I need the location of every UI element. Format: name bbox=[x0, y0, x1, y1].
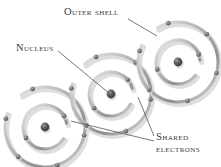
nucleus bbox=[174, 58, 183, 67]
atom-bonding-diagram: Outer shell Nucleus Shared electrons bbox=[0, 0, 221, 167]
outer-shell-electron bbox=[30, 87, 35, 92]
outer-shell-electron bbox=[3, 116, 8, 121]
atom-right bbox=[137, 21, 220, 105]
nucleus bbox=[41, 123, 50, 132]
outer-shell-electron bbox=[94, 55, 99, 60]
nucleus bbox=[107, 90, 116, 99]
inner-shell-electron bbox=[62, 114, 67, 119]
outer-shell-electron bbox=[69, 86, 74, 91]
outer-shell-electron bbox=[185, 98, 190, 103]
outer-shell-electron bbox=[166, 21, 171, 26]
outer-shell-electron bbox=[82, 133, 87, 138]
inner-shell-electron bbox=[155, 67, 160, 72]
label-outer-shell: Outer shell bbox=[64, 6, 119, 18]
label-shared-line2: electrons bbox=[156, 143, 200, 155]
label-shared-line1: Shared bbox=[156, 131, 188, 142]
leader-outer-shell bbox=[128, 19, 157, 36]
outer-shell-electron bbox=[214, 71, 219, 76]
label-shared-electrons: Shared electrons bbox=[156, 131, 200, 154]
outer-shell-electron bbox=[204, 32, 209, 37]
inner-shell-electron bbox=[125, 77, 130, 82]
inner-shell-electron bbox=[92, 106, 97, 111]
outer-shell-electron bbox=[147, 87, 152, 92]
outer-shell-electron bbox=[124, 129, 129, 134]
outer-shell-electron bbox=[148, 97, 153, 102]
inner-shell-electron bbox=[24, 136, 29, 141]
inner-shell-electron bbox=[196, 52, 201, 57]
label-nucleus: Nucleus bbox=[16, 42, 54, 54]
outer-shell-electron bbox=[16, 154, 21, 159]
outer-shell-electron bbox=[137, 49, 142, 54]
